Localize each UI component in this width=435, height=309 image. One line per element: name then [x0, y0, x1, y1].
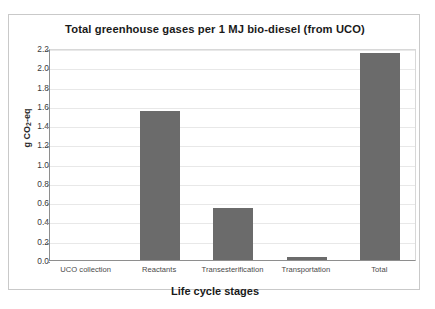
- bar-slot: [197, 50, 270, 260]
- bar-slot: [270, 50, 343, 260]
- plot-area: [49, 49, 416, 261]
- y-axis-tick-label: 0.8: [23, 180, 49, 188]
- bar-series: [50, 50, 415, 260]
- bar-slot: [344, 50, 417, 260]
- y-axis-tick-label: 1.0: [23, 160, 49, 168]
- y-axis-tick-label: 0.0: [23, 257, 49, 265]
- bar[interactable]: [360, 53, 400, 260]
- y-axis-tick-label: 2.0: [23, 64, 49, 72]
- x-axis-category-label: Transesterification: [202, 265, 264, 274]
- x-axis-category-labels: UCO collectionReactantsTransesterificati…: [49, 265, 416, 279]
- bar[interactable]: [140, 111, 180, 260]
- y-axis-tick-label: 0.6: [23, 199, 49, 207]
- x-axis-title: Life cycle stages: [9, 285, 421, 297]
- y-axis-tick-label: 2.2: [23, 45, 49, 53]
- y-axis-tick-label: 1.8: [23, 83, 49, 91]
- x-axis-category-label: Reactants: [142, 265, 176, 274]
- bar-slot: [123, 50, 196, 260]
- y-axis-tick-labels: 0.00.20.40.60.81.01.21.41.61.82.02.2: [23, 49, 49, 261]
- y-axis-tickmark: [47, 262, 50, 263]
- y-axis-tick-label: 1.4: [23, 122, 49, 130]
- bar-slot: [50, 50, 123, 260]
- x-axis-category-label: Transportation: [282, 265, 331, 274]
- bar[interactable]: [287, 257, 327, 260]
- chart-title: Total greenhouse gases per 1 MJ bio-dies…: [9, 23, 421, 35]
- x-axis-category-label: Total: [371, 265, 387, 274]
- y-axis-tick-label: 1.2: [23, 141, 49, 149]
- bar[interactable]: [213, 208, 253, 260]
- y-axis-tick-label: 0.4: [23, 218, 49, 226]
- chart-container: Total greenhouse gases per 1 MJ bio-dies…: [8, 14, 420, 290]
- y-axis-tick-label: 1.6: [23, 103, 49, 111]
- y-axis-tick-label: 0.2: [23, 238, 49, 246]
- x-axis-category-label: UCO collection: [60, 265, 111, 274]
